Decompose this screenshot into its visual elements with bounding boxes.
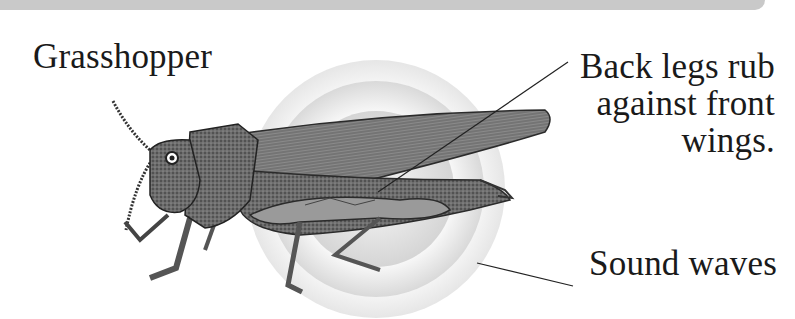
leader-line-waves bbox=[477, 263, 573, 286]
grasshopper-diagram bbox=[0, 0, 795, 319]
